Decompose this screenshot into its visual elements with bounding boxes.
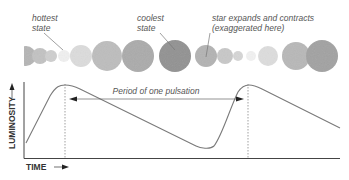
arrow-right-icon bbox=[236, 97, 244, 102]
period-arrow bbox=[69, 97, 244, 102]
arrow-left-icon bbox=[69, 97, 77, 102]
star-phase-13 bbox=[258, 46, 278, 66]
star-phase-15 bbox=[306, 40, 338, 72]
star-phase-12 bbox=[246, 51, 256, 61]
star-phase-14 bbox=[282, 42, 310, 70]
arrow-up-icon bbox=[10, 83, 15, 90]
coolest-label: cooleststate bbox=[137, 13, 165, 33]
arrow-right-icon bbox=[62, 165, 69, 170]
x-axis-label: TIME bbox=[26, 162, 47, 172]
star-phase-10 bbox=[217, 48, 233, 64]
expands-label: star expands and contracts(exaggerated h… bbox=[212, 13, 315, 33]
star-phase-6 bbox=[92, 41, 122, 71]
hottest-leader-line bbox=[44, 33, 63, 50]
star-sequence bbox=[16, 40, 338, 72]
pulsating-star-diagram: hotteststate cooleststate star expands a… bbox=[0, 0, 349, 180]
period-label: Period of one pulsation bbox=[113, 86, 200, 96]
y-axis-label: LUMINOSITY bbox=[7, 96, 17, 149]
star-phase-3 bbox=[45, 50, 57, 62]
hottest-label: hotteststate bbox=[32, 13, 58, 33]
star-phase-4 bbox=[58, 50, 70, 62]
star-phase-5 bbox=[70, 45, 92, 67]
star-phase-8 bbox=[159, 40, 191, 72]
star-phase-7 bbox=[122, 40, 154, 72]
star-phase-11 bbox=[233, 51, 243, 61]
